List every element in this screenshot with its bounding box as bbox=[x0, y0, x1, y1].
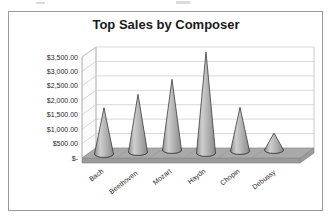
y-tick-500: $500.00 bbox=[53, 140, 78, 147]
y-tick-1000: $1,000.00 bbox=[47, 126, 78, 133]
y-tick-0: $- bbox=[72, 155, 79, 162]
chart-title: Top Sales by Composer bbox=[92, 17, 239, 32]
y-tick-2000: $2,000.00 bbox=[47, 97, 78, 104]
scan-artifact bbox=[36, 2, 45, 4]
y-tick-2500: $2,500.00 bbox=[47, 82, 78, 89]
y-tick-1500: $1,500.00 bbox=[47, 111, 78, 118]
floor-front-face bbox=[82, 158, 300, 163]
scan-artifact bbox=[176, 1, 190, 4]
y-tick-3500: $3,500.00 bbox=[47, 54, 78, 61]
sales-chart: Top Sales by Composer bbox=[0, 0, 333, 222]
y-tick-3000: $3,000.00 bbox=[47, 68, 78, 75]
left-side-wall bbox=[82, 47, 96, 158]
